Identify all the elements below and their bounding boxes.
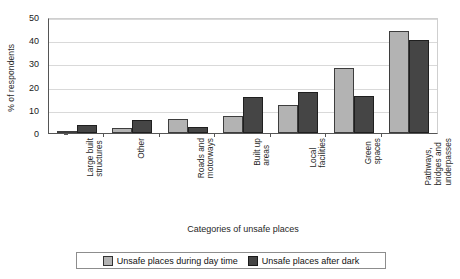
- legend-label: Unsafe places during day time: [117, 256, 238, 266]
- x-category-cell: Built up areas: [215, 136, 271, 222]
- bar-group: [160, 19, 215, 133]
- bar-group: [382, 19, 437, 133]
- bar[interactable]: [132, 120, 152, 133]
- x-category-cell: Green spaces: [327, 136, 383, 222]
- x-category-label: Roads and motorways: [197, 138, 216, 178]
- bar[interactable]: [243, 97, 263, 133]
- legend-swatch-icon: [103, 256, 113, 266]
- bar[interactable]: [298, 92, 318, 133]
- y-axis-ticks: 01020304050: [20, 14, 42, 138]
- bar-chart: % of respondents 01020304050 Large built…: [0, 0, 460, 279]
- x-axis-title: Categories of unsafe places: [48, 224, 438, 234]
- bar[interactable]: [278, 105, 298, 133]
- y-tick-mark: [64, 134, 68, 135]
- bars-layer: [49, 19, 437, 133]
- x-category-cell: Roads and motorways: [159, 136, 215, 222]
- bar-group: [49, 19, 104, 133]
- bar[interactable]: [389, 31, 409, 133]
- y-axis-title: % of respondents: [2, 18, 20, 138]
- x-category-label: Large built structures: [85, 138, 104, 177]
- y-tick-label: 50: [29, 14, 39, 23]
- bar[interactable]: [168, 119, 188, 133]
- y-tick-label: 0: [34, 130, 39, 139]
- bar[interactable]: [112, 128, 132, 133]
- legend-swatch-icon: [248, 256, 258, 266]
- x-category-cell: Local facilities: [271, 136, 327, 222]
- y-tick-label: 30: [29, 60, 39, 69]
- x-category-cell: Pathways, bridges and underpasses: [382, 136, 438, 222]
- bar-group: [271, 19, 326, 133]
- bar-group: [104, 19, 159, 133]
- bar[interactable]: [223, 116, 243, 133]
- x-category-cell: Other: [104, 136, 160, 222]
- bar[interactable]: [57, 131, 77, 133]
- x-category-label: Built up areas: [253, 138, 272, 166]
- legend-label: Unsafe places after dark: [262, 256, 360, 266]
- bar-group: [215, 19, 270, 133]
- y-tick-label: 20: [29, 83, 39, 92]
- bar[interactable]: [188, 127, 208, 133]
- bar[interactable]: [334, 68, 354, 133]
- x-category-label: Other: [136, 138, 146, 159]
- bar[interactable]: [409, 40, 429, 133]
- bar[interactable]: [354, 96, 374, 133]
- x-axis-category-labels: Large built structuresOtherRoads and mot…: [48, 136, 438, 222]
- x-category-label: Local facilities: [308, 138, 327, 168]
- x-category-label: Pathways, bridges and underpasses: [425, 138, 454, 186]
- y-tick-label: 10: [29, 106, 39, 115]
- bar-group: [326, 19, 381, 133]
- x-category-cell: Large built structures: [48, 136, 104, 222]
- x-category-label: Green spaces: [364, 138, 383, 164]
- legend-item[interactable]: Unsafe places after dark: [248, 256, 360, 266]
- y-tick-label: 40: [29, 37, 39, 46]
- bar[interactable]: [77, 125, 97, 133]
- chart-legend: Unsafe places during day timeUnsafe plac…: [76, 252, 386, 269]
- plot-area: [48, 18, 438, 134]
- y-axis-title-text: % of respondents: [6, 44, 16, 112]
- legend-item[interactable]: Unsafe places during day time: [103, 256, 238, 266]
